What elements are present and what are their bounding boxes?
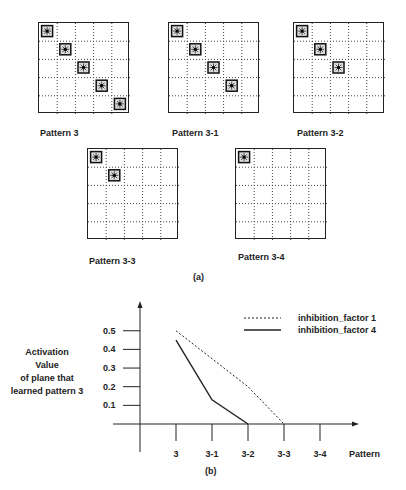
active-cell-icon	[109, 170, 120, 181]
x-tick-label: 3	[173, 449, 178, 459]
active-cell-icon	[42, 26, 53, 37]
pattern-label: Pattern 3	[40, 128, 79, 138]
active-cell-icon	[190, 44, 201, 55]
x-tick-label: 3-4	[313, 449, 326, 459]
active-cell-icon	[114, 98, 125, 109]
legend-label: inhibition_factor 1	[298, 313, 376, 323]
active-cell-icon	[172, 26, 183, 37]
pattern-grid	[168, 22, 259, 113]
active-cell-icon	[96, 80, 107, 91]
figure-b-caption: (b)	[205, 466, 217, 476]
active-cell-icon	[208, 62, 219, 73]
x-tick-label: 3-2	[241, 449, 254, 459]
x-tick-label: 3-1	[205, 449, 218, 459]
pattern-grid	[38, 22, 129, 113]
active-cell-icon	[333, 62, 344, 73]
active-cell-icon	[91, 152, 102, 163]
x-axis-label: Pattern	[349, 449, 380, 459]
active-cell-icon	[60, 44, 71, 55]
active-cell-icon	[315, 44, 326, 55]
series-line	[176, 340, 248, 424]
active-cell-icon	[78, 62, 89, 73]
legend-label: inhibition_factor 4	[298, 325, 376, 335]
x-axis-arrow-icon	[352, 422, 359, 427]
pattern-grid	[87, 148, 178, 239]
pattern-grid	[235, 148, 326, 239]
pattern-grid	[293, 22, 384, 113]
pattern-label: Pattern 3-1	[172, 128, 219, 138]
series-line	[176, 331, 284, 424]
y-tick-label: 0.2	[103, 382, 116, 392]
y-tick-label: 0.4	[103, 344, 116, 354]
y-tick-label: 0.1	[103, 400, 116, 410]
active-cell-icon	[226, 80, 237, 91]
pattern-label: Pattern 3-2	[297, 128, 344, 138]
y-axis-label: Activation Value of plane that learned p…	[6, 346, 88, 398]
y-axis-arrow-icon	[138, 301, 143, 308]
active-cell-icon	[297, 26, 308, 37]
active-cell-icon	[239, 152, 250, 163]
y-tick-label: 0.3	[103, 363, 116, 373]
x-tick-label: 3-3	[277, 449, 290, 459]
y-tick-label: 0.5	[103, 326, 116, 336]
